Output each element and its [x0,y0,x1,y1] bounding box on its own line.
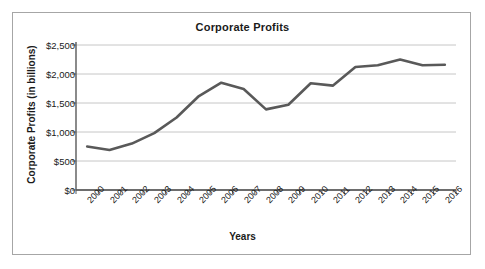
x-tick-label: 2006 [219,184,240,205]
x-tick-label: 2015 [420,184,441,205]
x-tick-label: 2002 [130,184,151,205]
x-tick-label: 2003 [152,184,173,205]
x-tick-label: 2001 [108,184,129,205]
x-tick-label: 2005 [197,184,218,205]
x-tick-label: 2000 [85,184,106,205]
x-tick-label: 2016 [443,184,464,205]
x-tick-label: 2011 [331,184,352,205]
x-tick-label: 2010 [309,184,330,205]
x-tick-label: 2007 [242,184,263,205]
x-tick-label: 2009 [286,184,307,205]
x-tick-label: 2008 [264,184,285,205]
x-axis-tick-labels: 2000200120022003200420052006200720082009… [13,13,472,256]
x-tick-label: 2014 [398,184,419,205]
x-tick-label: 2012 [353,184,374,205]
x-tick-label: 2013 [376,184,397,205]
chart-figure: Corporate Profits Corporate Profits (in … [12,12,471,255]
x-tick-label: 2004 [175,184,196,205]
